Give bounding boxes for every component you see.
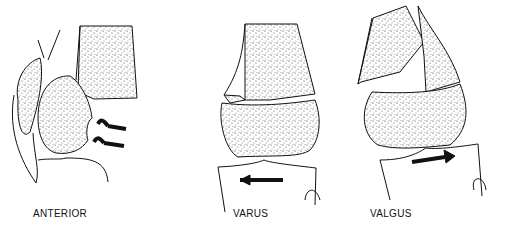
valgus-panel [358, 6, 486, 200]
varus-panel [218, 24, 320, 212]
anterior-panel [12, 26, 137, 183]
diagram-illustrations [0, 0, 512, 231]
varus-label: VARUS [233, 208, 268, 219]
knee-fracture-diagram: ANTERIOR VARUS VALGUS [0, 0, 512, 231]
anterior-label: ANTERIOR [33, 208, 87, 219]
valgus-label: VALGUS [370, 208, 412, 219]
